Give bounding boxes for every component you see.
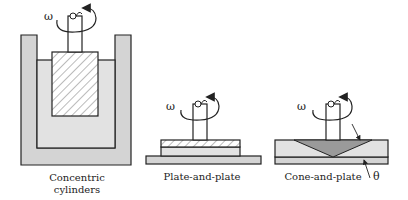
bottom-plate — [275, 157, 388, 164]
omega-symbol: ω — [297, 100, 306, 113]
label-line-1: Concentric — [46, 172, 108, 184]
bottom-plate — [146, 156, 261, 164]
shaft — [326, 104, 340, 140]
omega-symbol: ω — [44, 10, 53, 23]
label-plate-and-plate: Plate-and-plate — [160, 171, 244, 183]
fluid-gap — [161, 147, 240, 156]
rheometer-diagram — [0, 0, 408, 200]
plate-and-plate-geometry — [146, 97, 261, 164]
top-plate — [161, 140, 240, 147]
cone-and-plate-geometry — [275, 97, 388, 178]
shaft — [68, 16, 82, 52]
label-line-2: cylinders — [46, 184, 108, 196]
omega-symbol: ω — [166, 100, 175, 113]
theta-symbol: θ — [373, 170, 380, 183]
inner-bob — [52, 52, 98, 116]
concentric-cylinders-geometry — [21, 8, 131, 165]
label-concentric-cylinders: Concentric cylinders — [46, 172, 108, 196]
label-cone-and-plate: Cone-and-plate — [282, 171, 364, 183]
shaft — [193, 104, 207, 140]
cone-angle-arrow-top — [352, 124, 360, 140]
